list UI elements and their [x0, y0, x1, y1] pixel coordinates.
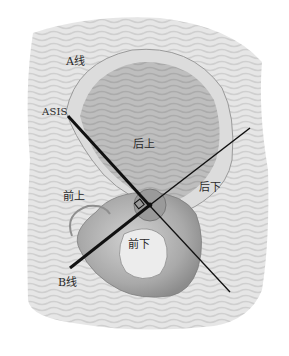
- label-anterior-inferior: 前下: [128, 239, 150, 251]
- label-asis: ASIS: [42, 106, 68, 118]
- label-a-line: A线: [66, 56, 85, 68]
- label-anterior-superior: 前上: [63, 191, 85, 203]
- label-posterior-inferior: 后下: [199, 182, 221, 194]
- label-posterior-superior: 后上: [133, 139, 155, 151]
- intersection-point: [148, 203, 153, 208]
- pelvis-diagram: A线 ASIS 后上 前上 后下 前下 B线: [0, 0, 289, 356]
- pelvis-illustration: [0, 0, 289, 356]
- obturator-foramen: [119, 229, 167, 279]
- label-b-line: B线: [58, 277, 77, 289]
